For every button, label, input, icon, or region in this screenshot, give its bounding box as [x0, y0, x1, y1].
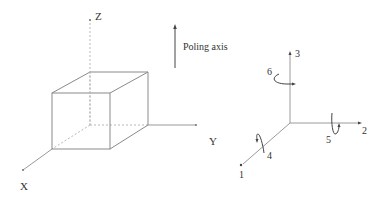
poling-axis-label: Poling axis: [183, 41, 228, 52]
poling-arrow-head-icon: [173, 24, 177, 29]
rotation-4-arrow-icon: [256, 139, 259, 143]
cube-coordinate-system: Z Y X: [20, 10, 217, 192]
x-axis-tip: [22, 169, 24, 171]
rotation-6-icon: [274, 74, 294, 84]
z-axis-label: Z: [95, 10, 102, 22]
x-axis: [23, 149, 52, 170]
cube-right-face: [110, 72, 148, 149]
x-axis-label: X: [20, 180, 28, 192]
tensor-axes: 3 2 1 6 5 4: [239, 48, 367, 180]
piezo-axes-diagram: Z Y X Poling axis 3 2 1 6 5 4: [0, 0, 384, 198]
rotation-6-label: 6: [267, 66, 272, 77]
y-axis-tip: [195, 124, 197, 126]
rotation-4-icon: [257, 134, 264, 153]
axis-3-label: 3: [295, 48, 300, 59]
y-axis-label: Y: [209, 135, 217, 147]
z-axis-tip: [89, 19, 91, 21]
cube: [52, 72, 148, 149]
axis-1-arrow-icon: [240, 164, 242, 166]
x-axis-hidden: [52, 125, 90, 149]
axis-2-label: 2: [362, 125, 367, 136]
rotation-4-label: 4: [267, 150, 272, 161]
rotation-6-arrow-icon: [292, 83, 296, 86]
cube-top-face: [52, 72, 148, 93]
rotation-5-arrow-icon: [338, 123, 341, 127]
poling-axis-indicator: Poling axis: [173, 24, 228, 68]
axis-3-arrow-icon: [289, 51, 292, 55]
cube-front-face: [52, 93, 110, 149]
axis-1-label: 1: [239, 169, 244, 180]
rotation-5-label: 5: [326, 134, 331, 145]
